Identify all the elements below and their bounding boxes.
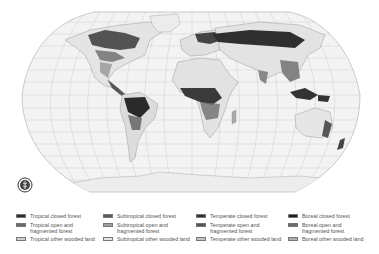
legend-swatch bbox=[16, 237, 26, 241]
legend-swatch bbox=[288, 214, 298, 218]
legend-swatch bbox=[288, 223, 298, 227]
world-forest-map bbox=[0, 0, 379, 200]
legend-swatch bbox=[196, 223, 206, 227]
legend-swatch bbox=[288, 237, 298, 241]
fao-logo-icon bbox=[17, 177, 33, 193]
legend-swatch bbox=[196, 237, 206, 241]
legend-swatch bbox=[16, 223, 26, 227]
legend-swatch bbox=[16, 214, 26, 218]
legend-swatch bbox=[103, 214, 113, 218]
legend-swatch bbox=[103, 237, 113, 241]
legend-swatch bbox=[103, 223, 113, 227]
map-legend: Tropical closed forest Tropical open and… bbox=[0, 213, 379, 253]
legend-swatch bbox=[196, 214, 206, 218]
